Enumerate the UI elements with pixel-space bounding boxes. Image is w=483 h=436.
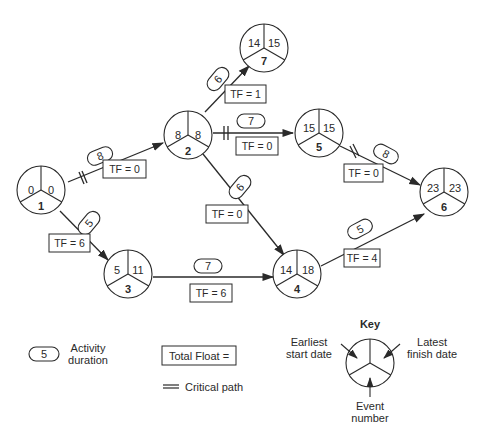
- event-number: 6: [441, 201, 447, 213]
- earliest-start: 14: [248, 37, 260, 49]
- event-node-5: 15 15 5: [295, 109, 343, 157]
- duration-pill-4-6: 5: [345, 217, 375, 242]
- latest-finish: 23: [449, 182, 461, 194]
- legend-critical-path-label: Critical path: [185, 381, 243, 393]
- key-event-label: Event: [356, 400, 384, 412]
- latest-finish: 0: [48, 184, 54, 196]
- legend-total-float-label: Total Float =: [169, 350, 229, 362]
- legend-critical-path: Critical path: [163, 381, 243, 393]
- tf-box-2-7: TF = 1: [225, 85, 266, 103]
- tf-box-3-4: TF = 6: [190, 284, 232, 302]
- event-number: 5: [316, 141, 322, 153]
- event-number: 4: [294, 283, 301, 295]
- tf-box-4-6: TF = 4: [344, 249, 380, 267]
- tf-box-5-6: TF = 0: [344, 164, 383, 182]
- event-node-2: 8 8 2: [164, 111, 212, 159]
- event-node-3: 5 11 3: [104, 250, 152, 298]
- latest-finish: 18: [302, 264, 314, 276]
- event-node-1: 0 0 1: [17, 166, 65, 214]
- tf-value: TF = 0: [212, 208, 243, 220]
- event-node-6: 23 23 6: [420, 168, 468, 216]
- network-diagram: 8 5 6 7 6 7 8 5: [0, 0, 483, 436]
- latest-finish: 11: [132, 264, 143, 276]
- key-latest-label: Latest: [417, 336, 447, 348]
- event-node-7: 14 15 7: [240, 24, 288, 72]
- legend-duration-label: duration: [68, 354, 108, 366]
- tf-box-1-3: TF = 6: [49, 234, 90, 252]
- duration-pill-2-5: 7: [237, 114, 265, 128]
- tf-box-1-2: TF = 0: [103, 160, 146, 178]
- duration-pill-5-6: 8: [371, 142, 401, 167]
- earliest-start: 14: [280, 264, 292, 276]
- tf-value: TF = 6: [54, 237, 85, 249]
- event-number: 2: [185, 145, 191, 157]
- earliest-start: 0: [28, 184, 34, 196]
- tf-value: TF = 0: [242, 140, 273, 152]
- earliest-start: 8: [175, 129, 181, 141]
- tf-value: TF = 6: [196, 287, 227, 299]
- legend-duration-sample: 5: [41, 348, 47, 360]
- tf-box-2-4: TF = 0: [206, 205, 248, 223]
- key-earliest-label: start date: [286, 348, 332, 360]
- earliest-start: 5: [114, 264, 120, 276]
- tf-value: TF = 4: [347, 252, 378, 264]
- duration-value: 7: [205, 260, 211, 272]
- duration-pill-2-4: 6: [226, 173, 253, 202]
- key-earliest-label: Earliest: [291, 336, 328, 348]
- event-number: 7: [261, 55, 267, 67]
- tf-value: TF = 1: [230, 88, 261, 100]
- legend-total-float: Total Float =: [162, 346, 236, 365]
- earliest-start: 15: [303, 122, 315, 134]
- duration-pill-1-3: 5: [75, 209, 102, 238]
- diagram-canvas: 8 5 6 7 6 7 8 5: [0, 0, 483, 436]
- key-event-label: number: [351, 412, 389, 424]
- legend-duration-label: Activity: [71, 342, 106, 354]
- event-number: 3: [125, 283, 131, 295]
- key-latest-label: finish date: [407, 348, 457, 360]
- key-title: Key: [360, 318, 381, 330]
- event-number: 1: [38, 200, 44, 212]
- tf-box-2-5: TF = 0: [236, 137, 278, 155]
- duration-pill-3-4: 7: [194, 259, 222, 273]
- tf-value: TF = 0: [109, 163, 140, 175]
- event-node-4: 14 18 4: [273, 250, 321, 298]
- earliest-start: 23: [427, 182, 439, 194]
- latest-finish: 15: [323, 122, 335, 134]
- legend-key: Key Earliest start date Latest finish da…: [286, 318, 457, 424]
- legend: 5 Activity duration Total Float = Critic…: [29, 318, 457, 424]
- duration-value: 7: [248, 115, 254, 127]
- tf-value: TF = 0: [348, 167, 379, 179]
- legend-duration: 5 Activity duration: [29, 342, 108, 366]
- latest-finish: 15: [268, 37, 280, 49]
- latest-finish: 8: [195, 129, 201, 141]
